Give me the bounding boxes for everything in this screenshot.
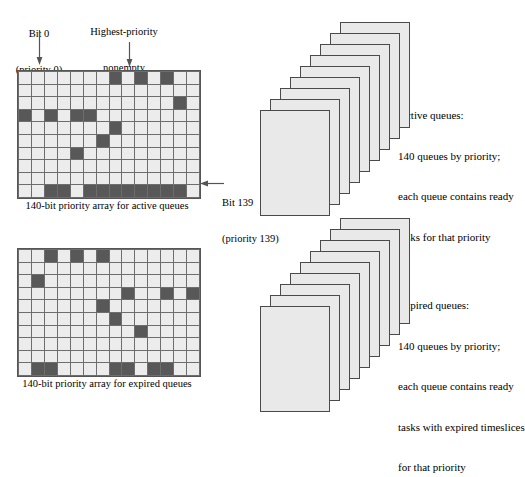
expired-bit-cell bbox=[19, 300, 31, 312]
expired-bit-cell bbox=[19, 351, 31, 363]
expired-bit-cell bbox=[97, 326, 109, 338]
active-bit-cell bbox=[135, 85, 147, 97]
active-bit-cell bbox=[187, 122, 199, 134]
expired-bit-cell bbox=[110, 363, 122, 375]
expired-bit-cell bbox=[97, 250, 109, 262]
active-bit-cell bbox=[45, 148, 57, 160]
expired-bit-cell bbox=[161, 351, 173, 363]
active-bit-cell bbox=[71, 122, 83, 134]
expired-bit-cell bbox=[161, 300, 173, 312]
expired-bit-cell bbox=[45, 313, 57, 325]
active-queue-card bbox=[260, 110, 330, 216]
expired-bit-cell bbox=[97, 363, 109, 375]
active-bit-cell bbox=[84, 173, 96, 185]
active-bit-cell bbox=[174, 72, 186, 84]
active-bit-cell bbox=[97, 135, 109, 147]
active-bit-cell bbox=[19, 135, 31, 147]
active-bit-cell bbox=[110, 160, 122, 172]
active-bit-cell bbox=[84, 110, 96, 122]
expired-bit-cell bbox=[32, 326, 44, 338]
active-bit-cell bbox=[174, 148, 186, 160]
highest-priority-arrow-icon bbox=[125, 42, 134, 68]
active-bit-cell bbox=[32, 85, 44, 97]
expired-priority-array-grid bbox=[17, 248, 201, 377]
expired-bit-cell bbox=[174, 363, 186, 375]
expired-bit-cell bbox=[135, 288, 147, 300]
active-bit-cell bbox=[174, 110, 186, 122]
expired-bit-cell bbox=[32, 275, 44, 287]
expired-bit-cell bbox=[122, 313, 134, 325]
expired-bit-cell bbox=[135, 338, 147, 350]
active-priority-array-grid bbox=[17, 70, 201, 199]
active-bit-cell bbox=[122, 185, 134, 197]
active-bit-cell bbox=[135, 97, 147, 109]
active-bit-cell bbox=[97, 148, 109, 160]
expired-bit-cell bbox=[58, 288, 70, 300]
active-bit-cell bbox=[71, 72, 83, 84]
expired-bit-cell bbox=[58, 363, 70, 375]
active-bit-cell bbox=[135, 110, 147, 122]
active-bit-cell bbox=[135, 173, 147, 185]
active-bit-cell bbox=[122, 148, 134, 160]
expired-bit-cell bbox=[122, 263, 134, 275]
active-bit-cell bbox=[84, 148, 96, 160]
expired-bit-cell bbox=[58, 263, 70, 275]
expired-bit-cell bbox=[32, 363, 44, 375]
active-bit-cell bbox=[84, 72, 96, 84]
active-bit-cell bbox=[174, 85, 186, 97]
expired-bit-cell bbox=[84, 263, 96, 275]
active-bit-cell bbox=[161, 122, 173, 134]
expired-bit-cell bbox=[187, 338, 199, 350]
expired-bit-cell bbox=[174, 351, 186, 363]
expired-bit-cell bbox=[71, 351, 83, 363]
active-bit-cell bbox=[187, 97, 199, 109]
active-bit-cell bbox=[84, 97, 96, 109]
expired-bit-cell bbox=[148, 263, 160, 275]
expired-bit-cell bbox=[187, 250, 199, 262]
active-bit-cell bbox=[110, 85, 122, 97]
expired-queue-stack bbox=[260, 218, 420, 398]
active-bit-cell bbox=[135, 160, 147, 172]
active-array-caption: 140-bit priority array for active queues bbox=[17, 200, 197, 211]
expired-bit-cell bbox=[161, 363, 173, 375]
expired-bit-cell bbox=[135, 275, 147, 287]
expired-bit-cell bbox=[187, 263, 199, 275]
expired-bit-cell bbox=[45, 351, 57, 363]
expired-bit-cell bbox=[19, 363, 31, 375]
active-bit-cell bbox=[187, 85, 199, 97]
active-bit-cell bbox=[187, 135, 199, 147]
expired-bit-cell bbox=[161, 275, 173, 287]
expired-bit-cell bbox=[19, 338, 31, 350]
expired-bit-cell bbox=[45, 250, 57, 262]
active-bit-cell bbox=[45, 135, 57, 147]
expired-bit-cell bbox=[135, 363, 147, 375]
active-bit-cell bbox=[71, 135, 83, 147]
active-bit-cell bbox=[58, 135, 70, 147]
expired-bit-cell bbox=[122, 250, 134, 262]
expired-bit-cell bbox=[148, 313, 160, 325]
expired-bit-cell bbox=[71, 288, 83, 300]
expired-bit-cell bbox=[174, 250, 186, 262]
expired-bit-cell bbox=[122, 363, 134, 375]
expired-bit-cell bbox=[148, 300, 160, 312]
expired-bit-cell bbox=[187, 326, 199, 338]
active-bit-cell bbox=[135, 148, 147, 160]
expired-bit-cell bbox=[97, 300, 109, 312]
expired-queues-note-line2: 140 queues by priority; bbox=[398, 340, 525, 354]
active-bit-cell bbox=[71, 97, 83, 109]
expired-bit-cell bbox=[135, 326, 147, 338]
active-bit-cell bbox=[45, 173, 57, 185]
expired-bit-cell bbox=[71, 275, 83, 287]
expired-bit-cell bbox=[135, 351, 147, 363]
active-bit-cell bbox=[122, 122, 134, 134]
expired-bit-cell bbox=[148, 338, 160, 350]
expired-bit-cell bbox=[71, 263, 83, 275]
active-bit-cell bbox=[45, 160, 57, 172]
active-bit-cell bbox=[71, 160, 83, 172]
expired-bit-cell bbox=[110, 351, 122, 363]
active-bit-cell bbox=[135, 135, 147, 147]
expired-bit-cell bbox=[110, 288, 122, 300]
expired-bit-cell bbox=[110, 300, 122, 312]
expired-bit-cell bbox=[148, 351, 160, 363]
expired-bit-cell bbox=[187, 288, 199, 300]
